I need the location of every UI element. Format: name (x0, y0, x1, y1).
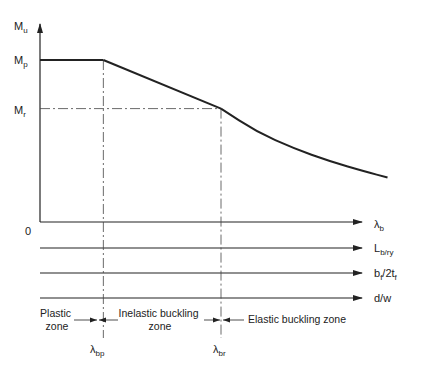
mr-label: Mr (14, 104, 26, 119)
x-axis-label-lb-ry: Lb/ry (374, 242, 393, 257)
x-axis-label-bf-2tf: bf/2tf (374, 267, 398, 282)
lambda-br-label: λbr (213, 343, 226, 358)
mp-label: Mp (14, 54, 28, 69)
x-axis-label-d-w: d/w (374, 292, 391, 304)
x-axis-label-lambda-b: λb (374, 218, 385, 233)
elastic-zone-label: Elastic buckling zone (248, 313, 346, 325)
origin-label: 0 (25, 225, 31, 237)
curve-inelastic (103, 60, 221, 109)
y-axis-label: Mu (14, 20, 28, 35)
strength-diagram: Mu Mp Mr 0 λb Lb/ry bf/2tf d/w Plastic z… (0, 0, 421, 375)
lambda-bp-label: λbp (90, 343, 105, 358)
plastic-zone-label: Plastic zone (40, 307, 74, 332)
curve-elastic (221, 109, 388, 178)
inelastic-zone-label: Inelastic buckling zone (119, 307, 202, 332)
